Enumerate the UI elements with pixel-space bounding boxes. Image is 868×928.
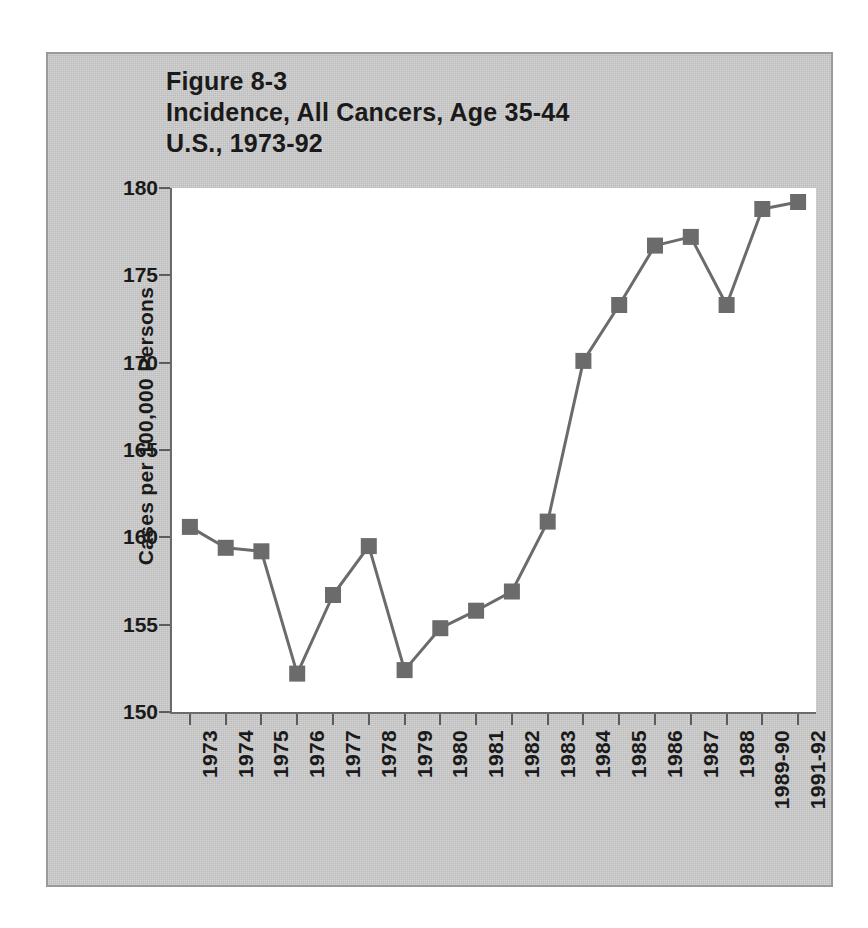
- x-axis-tick-mark: [260, 714, 262, 725]
- data-point-marker: [432, 620, 448, 636]
- data-point-marker: [182, 519, 198, 535]
- x-axis-tick-label: 1975: [269, 730, 293, 778]
- data-point-marker: [253, 543, 269, 559]
- data-point-marker: [647, 238, 663, 254]
- plot-area: [170, 188, 816, 714]
- y-axis-tick-mark: [159, 274, 170, 276]
- x-axis-tick-mark: [797, 714, 799, 725]
- x-axis-tick-mark: [368, 714, 370, 725]
- x-axis-tick-label: 1987: [699, 730, 723, 778]
- data-point-marker: [683, 229, 699, 245]
- x-axis-tick-label: 1986: [663, 730, 687, 778]
- y-axis-tick-mark: [159, 711, 170, 713]
- series-line: [190, 202, 798, 674]
- x-axis-tick-mark: [439, 714, 441, 725]
- data-point-marker: [289, 666, 305, 682]
- x-axis-tick-label: 1980: [448, 730, 472, 778]
- x-axis-tick-labels: 1973197419751976197719781979198019811982…: [172, 730, 816, 880]
- x-axis-tick-label: 1981: [484, 730, 508, 778]
- y-axis-tick-mark: [159, 449, 170, 451]
- y-axis-tick-mark: [159, 187, 170, 189]
- line-series-svg: [172, 188, 816, 712]
- data-point-marker: [325, 587, 341, 603]
- x-axis-tick-label: 1976: [305, 730, 329, 778]
- data-point-marker: [468, 603, 484, 619]
- x-axis-tick-mark: [654, 714, 656, 725]
- x-axis-tick-mark: [547, 714, 549, 725]
- y-axis-tick-label: 165: [96, 438, 158, 462]
- x-axis-tick-label: 1979: [413, 730, 437, 778]
- data-point-marker: [754, 201, 770, 217]
- y-axis-tick-label: 155: [96, 613, 158, 637]
- x-axis-tick-marks: [172, 714, 816, 726]
- x-axis-tick-mark: [189, 714, 191, 725]
- data-point-marker: [611, 297, 627, 313]
- x-axis-tick-mark: [332, 714, 334, 725]
- data-point-marker: [361, 538, 377, 554]
- data-point-marker: [504, 584, 520, 600]
- data-point-marker: [540, 514, 556, 530]
- x-axis-tick-mark: [726, 714, 728, 725]
- x-axis-tick-label: 1989-90: [770, 730, 794, 809]
- y-axis-tick-label: 170: [96, 351, 158, 375]
- x-axis-tick-label: 1988: [735, 730, 759, 778]
- x-axis-tick-mark: [761, 714, 763, 725]
- x-axis-tick-mark: [225, 714, 227, 725]
- data-point-marker: [397, 662, 413, 678]
- data-point-marker: [218, 540, 234, 556]
- y-axis-tick-labels: 150155160165170175180: [92, 188, 158, 712]
- data-point-marker: [790, 194, 806, 210]
- x-axis-tick-mark: [690, 714, 692, 725]
- y-axis-tick-label: 150: [96, 700, 158, 724]
- x-axis-tick-label: 1984: [591, 730, 615, 778]
- y-axis-tick-label: 175: [96, 263, 158, 287]
- x-axis-tick-label: 1991-92: [806, 730, 830, 809]
- x-axis-tick-label: 1973: [198, 730, 222, 778]
- x-axis-tick-label: 1982: [520, 730, 544, 778]
- x-axis-tick-label: 1974: [234, 730, 258, 778]
- x-axis-tick-mark: [582, 714, 584, 725]
- x-axis-tick-mark: [404, 714, 406, 725]
- x-axis-tick-mark: [475, 714, 477, 725]
- x-axis-tick-label: 1978: [377, 730, 401, 778]
- x-axis-tick-mark: [618, 714, 620, 725]
- x-axis-tick-label: 1977: [341, 730, 365, 778]
- y-axis-tick-mark: [159, 536, 170, 538]
- figure-panel: Figure 8-3 Incidence, All Cancers, Age 3…: [46, 52, 833, 887]
- data-point-marker: [575, 353, 591, 369]
- y-axis-tick-mark: [159, 624, 170, 626]
- x-axis-tick-label: 1983: [556, 730, 580, 778]
- x-axis-tick-label: 1985: [627, 730, 651, 778]
- figure-title: Figure 8-3 Incidence, All Cancers, Age 3…: [166, 66, 570, 159]
- y-axis-tick-mark: [159, 362, 170, 364]
- figure-title-line-3: U.S., 1973-92: [166, 128, 570, 159]
- figure-title-line-1: Figure 8-3: [166, 66, 570, 97]
- data-point-marker: [719, 297, 735, 313]
- figure-title-line-2: Incidence, All Cancers, Age 35-44: [166, 97, 570, 128]
- y-axis-tick-label: 160: [96, 525, 158, 549]
- y-axis-tick-label: 180: [96, 176, 158, 200]
- x-axis-tick-mark: [296, 714, 298, 725]
- x-axis-tick-mark: [511, 714, 513, 725]
